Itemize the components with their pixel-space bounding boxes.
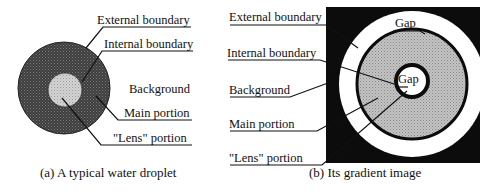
label-main-portion-a: Main portion — [124, 106, 190, 120]
caption-a: (a) A typical water droplet — [40, 165, 176, 181]
label-internal-boundary-b: Internal boundary — [227, 46, 316, 60]
label-gap-outer: Gap — [395, 16, 416, 30]
label-background-b: Background — [229, 83, 290, 97]
label-internal-boundary-a: Internal boundary — [104, 37, 193, 51]
label-main-portion-b: Main portion — [229, 117, 295, 131]
label-external-boundary-b: External boundary — [229, 10, 322, 24]
droplet-figure — [18, 42, 110, 134]
label-gap-inner: Gap — [398, 72, 419, 86]
caption-b: (b) Its gradient image — [309, 165, 421, 181]
label-background-a: Background — [129, 82, 190, 96]
label-lens-portion-a: "Lens" portion — [113, 131, 187, 145]
label-external-boundary-a: External boundary — [97, 13, 190, 27]
label-lens-portion-b: "Lens" portion — [229, 151, 303, 165]
